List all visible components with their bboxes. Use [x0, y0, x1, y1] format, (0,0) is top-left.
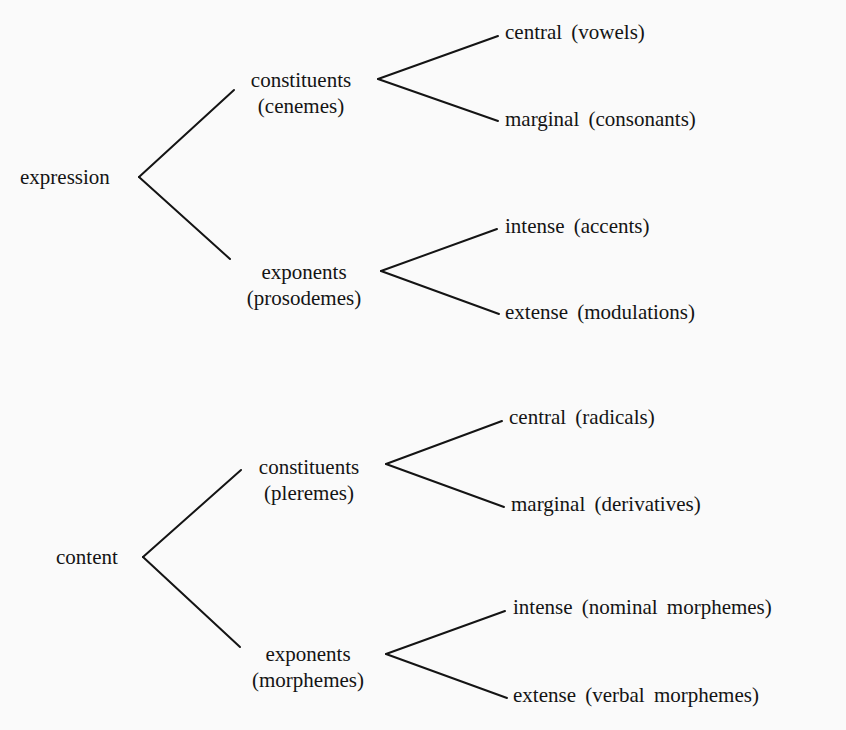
- edge-morphemes-extense: [386, 654, 507, 698]
- leaf-intense-accents: intense (accents): [505, 213, 650, 239]
- leaf-central-radicals: central (radicals): [509, 404, 655, 430]
- leaf-label: central (radicals): [509, 404, 655, 430]
- node-label: exponents: [232, 259, 376, 285]
- edge-expression-constituents: [139, 90, 234, 177]
- edge-content-constituents: [143, 470, 241, 557]
- leaf-label: intense (accents): [505, 213, 650, 239]
- node-exponents-prosodemes: exponents (prosodemes): [232, 259, 376, 311]
- node-label: content: [56, 544, 118, 570]
- node-sublabel: (prosodemes): [232, 285, 376, 311]
- edge-expression-exponents: [139, 177, 230, 259]
- node-exponents-morphemes: exponents (morphemes): [238, 641, 378, 693]
- connector-lines: [0, 0, 846, 730]
- leaf-label: central (vowels): [505, 19, 645, 45]
- leaf-label: intense (nominal morphemes): [513, 594, 772, 620]
- edge-cenemes-central: [378, 36, 498, 79]
- node-constituents-pleremes: constituents (pleremes): [244, 454, 374, 506]
- leaf-label: extense (verbal morphemes): [513, 682, 759, 708]
- node-expression: expression: [20, 164, 110, 190]
- edge-morphemes-intense: [386, 611, 505, 654]
- leaf-label: marginal (derivatives): [511, 491, 701, 517]
- leaf-extense-verbal-morphemes: extense (verbal morphemes): [513, 682, 759, 708]
- edge-pleremes-central: [386, 421, 502, 464]
- edge-pleremes-marginal: [386, 464, 504, 507]
- edge-content-exponents: [143, 557, 240, 647]
- edge-cenemes-marginal: [378, 79, 498, 121]
- leaf-central-vowels: central (vowels): [505, 19, 645, 45]
- leaf-extense-modulations: extense (modulations): [505, 299, 695, 325]
- edge-prosodemes-extense: [381, 271, 499, 314]
- node-sublabel: (morphemes): [238, 667, 378, 693]
- node-content: content: [56, 544, 118, 570]
- node-label: exponents: [238, 641, 378, 667]
- node-sublabel: (pleremes): [244, 480, 374, 506]
- leaf-label: marginal (consonants): [505, 106, 696, 132]
- node-label: constituents: [236, 67, 366, 93]
- edge-prosodemes-intense: [381, 229, 497, 271]
- leaf-label: extense (modulations): [505, 299, 695, 325]
- tree-diagram: expression content constituents (cenemes…: [0, 0, 846, 730]
- leaf-intense-nominal-morphemes: intense (nominal morphemes): [513, 594, 772, 620]
- node-label: expression: [20, 164, 110, 190]
- node-sublabel: (cenemes): [236, 93, 366, 119]
- leaf-marginal-consonants: marginal (consonants): [505, 106, 696, 132]
- node-constituents-cenemes: constituents (cenemes): [236, 67, 366, 119]
- node-label: constituents: [244, 454, 374, 480]
- leaf-marginal-derivatives: marginal (derivatives): [511, 491, 701, 517]
